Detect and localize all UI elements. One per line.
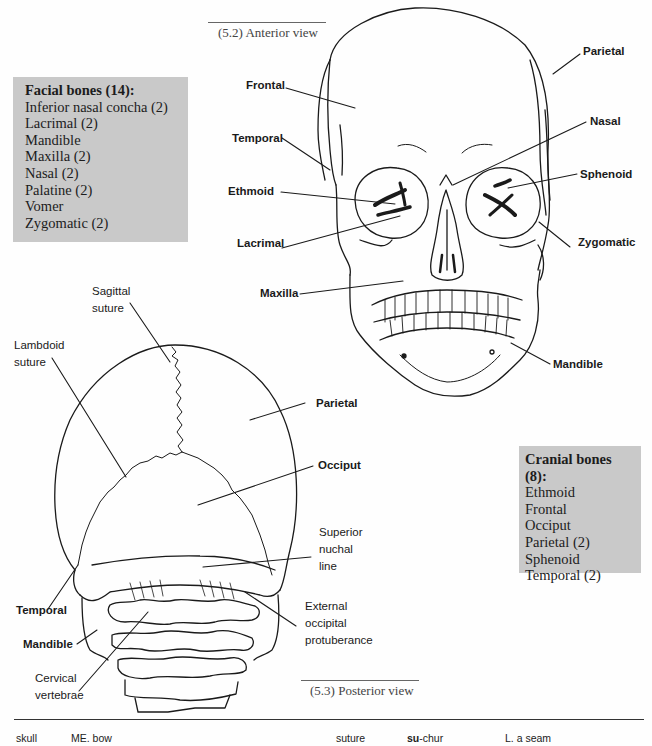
- label-external-occipital-protuberance: External occipital protuberance: [305, 598, 373, 649]
- label-superior-nuchal-line: Superior nuchal line: [319, 524, 362, 575]
- facial-bone-item: Zygomatic (2): [25, 215, 178, 232]
- footer-term-skull: skull: [16, 732, 37, 744]
- label-sagittal-suture: Sagittal suture: [92, 283, 130, 317]
- posterior-caption-rule: [301, 680, 419, 681]
- cranial-bone-item: Sphenoid: [525, 551, 631, 568]
- anatomy-page: (5.2) Anterior view Facial bones (14): I…: [0, 0, 652, 746]
- cranial-bone-item: Ethmoid: [525, 484, 631, 501]
- facial-bone-item: Inferior nasal concha (2): [25, 99, 178, 116]
- label-nasal: Nasal: [590, 113, 621, 130]
- facial-bone-item: Lacrimal (2): [25, 115, 178, 132]
- pronunciation-rest: -chur: [419, 732, 443, 744]
- facial-bone-item: Nasal (2): [25, 165, 178, 182]
- label-frontal: Frontal: [246, 77, 285, 94]
- facial-bone-item: Vomer: [25, 198, 178, 215]
- cranial-bone-item: Frontal: [525, 501, 631, 518]
- facial-bone-item: Palatine (2): [25, 182, 178, 199]
- posterior-view-caption: (5.3) Posterior view: [310, 683, 414, 699]
- cranial-bone-item: Parietal (2): [525, 534, 631, 551]
- anterior-skull-drawing: [318, 8, 550, 396]
- posterior-leader-lines: [48, 303, 313, 691]
- facial-bone-item: Mandible: [25, 132, 178, 149]
- facial-bones-box: Facial bones (14): Inferior nasal concha…: [13, 77, 188, 242]
- label-sphenoid: Sphenoid: [580, 166, 632, 183]
- footer-term-suture: suture: [336, 732, 365, 744]
- label-lacrimal: Lacrimal: [237, 235, 284, 252]
- anterior-view-caption: (5.2) Anterior view: [218, 25, 318, 41]
- label-ethmoid: Ethmoid: [228, 183, 274, 200]
- label-zygomatic: Zygomatic: [578, 234, 636, 251]
- footer-origin-suture: L. a seam: [505, 732, 551, 744]
- label-parietal-posterior: Parietal: [316, 395, 358, 412]
- footer-pronunciation-suture: su-chur: [407, 732, 443, 744]
- footer-rule: [14, 719, 644, 720]
- label-temporal-anterior: Temporal: [232, 130, 283, 147]
- label-mandible-anterior: Mandible: [553, 356, 603, 373]
- posterior-skull-drawing: [55, 345, 297, 712]
- label-lambdoid-suture: Lambdoid suture: [14, 337, 65, 371]
- footer-origin-skull: ME. bow: [71, 732, 112, 744]
- label-mandible-posterior: Mandible: [23, 636, 73, 653]
- cranial-bones-box: Cranial bones (8): Ethmoid Frontal Occip…: [519, 446, 641, 573]
- label-cervical-vertebrae: Cervical vertebrae: [35, 670, 84, 704]
- label-temporal-posterior: Temporal: [16, 602, 67, 619]
- facial-bone-item: Maxilla (2): [25, 148, 178, 165]
- pronunciation-stressed: su: [407, 732, 419, 744]
- cranial-bone-item: Occiput: [525, 517, 631, 534]
- cranial-bones-title: Cranial bones (8):: [525, 451, 631, 484]
- anterior-caption-rule: [208, 22, 326, 23]
- label-parietal-anterior: Parietal: [583, 43, 625, 60]
- label-occiput: Occiput: [318, 457, 361, 474]
- facial-bones-title: Facial bones (14):: [25, 82, 178, 99]
- label-maxilla: Maxilla: [260, 285, 298, 302]
- cranial-bone-item: Temporal (2): [525, 567, 631, 584]
